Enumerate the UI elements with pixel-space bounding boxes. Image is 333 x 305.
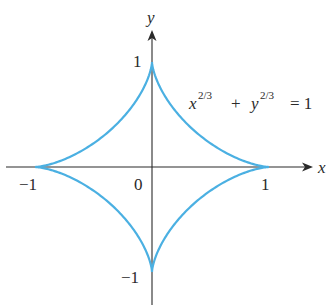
equation-label: x 2/3 + y 2/3 = 1 <box>188 89 312 113</box>
svg-text:x: x <box>188 94 197 113</box>
y-tick-neg-1: −1 <box>121 268 139 287</box>
x-tick-neg-1: −1 <box>19 175 37 194</box>
y-axis-label: y <box>145 8 155 27</box>
svg-text:= 1: = 1 <box>290 94 312 113</box>
origin-label: 0 <box>134 175 143 194</box>
svg-text:2/3: 2/3 <box>260 89 275 101</box>
astroid-diagram: x y 0 −1 1 1 −1 x 2/3 + y 2/3 = 1 <box>0 0 333 305</box>
x-tick-1: 1 <box>261 175 270 194</box>
y-tick-1: 1 <box>133 52 142 71</box>
svg-text:2/3: 2/3 <box>198 89 213 101</box>
svg-text:+: + <box>231 94 241 113</box>
svg-text:y: y <box>249 94 259 113</box>
x-axis-label: x <box>317 158 326 177</box>
